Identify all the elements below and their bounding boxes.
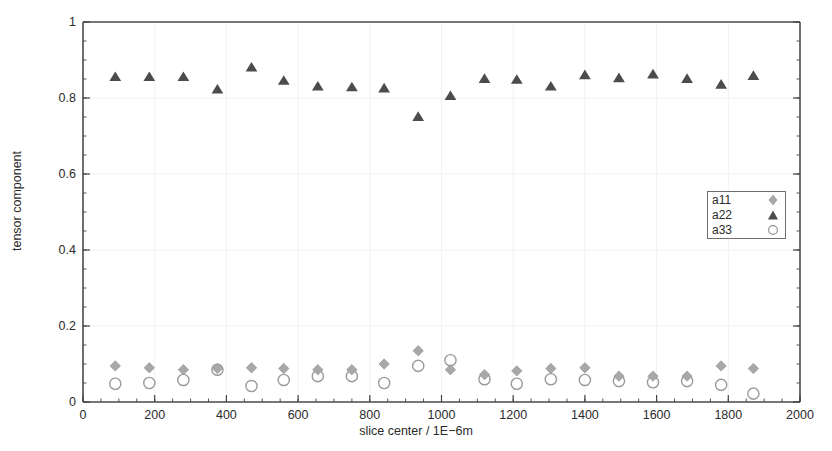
data-point: [716, 379, 727, 390]
data-point: [715, 79, 727, 89]
data-point: [546, 363, 556, 373]
legend-label-a22: a22: [712, 209, 732, 221]
data-point: [412, 111, 424, 121]
x-tick-label: 1200: [499, 408, 527, 422]
y-tick-label: 0.4: [34, 243, 76, 257]
data-point: [177, 71, 189, 81]
x-tick-label: 0: [80, 408, 87, 422]
data-point: [511, 74, 523, 84]
data-point: [613, 73, 625, 83]
legend-item-a22[interactable]: a22: [708, 207, 785, 222]
data-point: [681, 73, 693, 83]
x-tick-label: 200: [144, 408, 165, 422]
data-point: [413, 360, 424, 371]
data-point: [748, 388, 759, 399]
y-tick-label: 0.8: [34, 91, 76, 105]
scatter-plot-figure: tensor component slice center / 1E−6m 02…: [0, 0, 832, 451]
y-tick-label: 0: [34, 395, 76, 409]
diamond-icon: [765, 193, 781, 207]
y-tick-label: 0.2: [34, 319, 76, 333]
y-axis-title: tensor component: [10, 151, 24, 251]
data-point: [346, 82, 358, 92]
triangle-icon: [765, 208, 781, 222]
data-point: [143, 71, 155, 81]
legend[interactable]: a11 a22 a33: [707, 191, 786, 239]
data-point: [110, 378, 121, 389]
data-point: [278, 374, 289, 385]
data-point: [347, 365, 357, 375]
data-point: [545, 374, 556, 385]
x-tick-label: 2000: [786, 408, 814, 422]
data-point: [579, 70, 591, 80]
x-tick-label: 1800: [714, 408, 742, 422]
data-point: [445, 365, 455, 375]
x-tick-label: 1000: [428, 408, 456, 422]
data-point: [748, 70, 760, 80]
x-tick-label: 800: [359, 408, 380, 422]
data-point: [545, 81, 557, 91]
x-tick-label: 400: [216, 408, 237, 422]
data-point: [580, 363, 590, 373]
legend-label-a33: a33: [712, 224, 732, 236]
data-point: [246, 363, 256, 373]
data-point: [379, 377, 390, 388]
data-point: [614, 371, 624, 381]
data-point: [212, 84, 224, 94]
gridlines: [83, 22, 800, 402]
data-point: [246, 62, 258, 72]
data-point: [312, 81, 324, 91]
legend-label-a11: a11: [712, 194, 731, 206]
data-point: [246, 380, 257, 391]
data-point: [378, 83, 390, 93]
data-point: [144, 363, 154, 373]
series-a22-points: [109, 62, 759, 121]
data-point: [682, 371, 692, 381]
data-point: [445, 90, 457, 100]
y-tick-label: 0.6: [34, 167, 76, 181]
data-point: [479, 73, 491, 83]
data-point: [144, 377, 155, 388]
y-tick-label: 1: [34, 15, 76, 29]
legend-item-a11[interactable]: a11: [708, 192, 785, 207]
y-axis-title-container: tensor component: [6, 0, 28, 402]
series-a33-points: [110, 355, 759, 400]
x-tick-label: 1600: [643, 408, 671, 422]
data-point: [748, 363, 758, 373]
data-point: [647, 69, 659, 79]
data-point: [178, 365, 188, 375]
circle-icon: [765, 223, 781, 237]
data-point: [379, 359, 389, 369]
data-point: [279, 363, 289, 373]
data-point: [110, 361, 120, 371]
series-a11-points: [110, 346, 759, 382]
data-point: [109, 71, 121, 81]
data-point: [413, 346, 423, 356]
data-point: [716, 361, 726, 371]
x-tick-label: 1400: [571, 408, 599, 422]
data-point: [313, 365, 323, 375]
x-tick-label: 600: [288, 408, 309, 422]
legend-item-a33[interactable]: a33: [708, 222, 785, 237]
data-point: [178, 374, 189, 385]
data-point: [278, 75, 290, 85]
data-point: [479, 369, 489, 379]
x-axis-title: slice center / 1E−6m: [0, 424, 832, 438]
